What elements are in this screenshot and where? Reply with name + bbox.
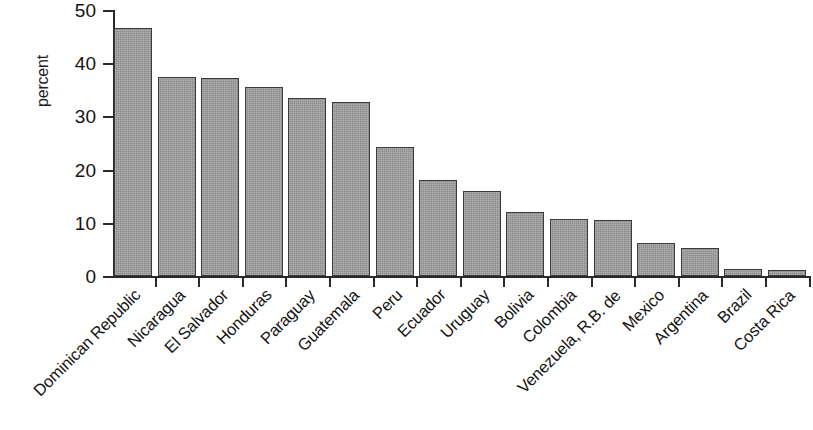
bar [201,78,239,276]
x-axis-tick [591,278,593,287]
x-axis-tick [809,278,811,287]
y-axis-tick-label: 30 [22,107,96,126]
y-axis-tick [103,10,113,12]
bar [376,147,414,276]
y-axis-tick [103,223,113,225]
x-axis-tick [285,278,287,287]
y-axis-tick-label: 50 [22,1,96,20]
bar [594,220,632,276]
bar [332,102,370,276]
bar [114,28,152,276]
y-axis-tick-label: 20 [22,161,96,180]
y-axis-tick [103,116,113,118]
x-axis-tick [460,278,462,287]
x-axis-tick [503,278,505,287]
bar [245,87,283,276]
x-axis-tick [678,278,680,287]
x-axis-tick [634,278,636,287]
x-axis-tick [765,278,767,287]
bar [681,248,719,276]
x-axis-tick [373,278,375,287]
y-axis-tick [103,170,113,172]
x-axis-tick [329,278,331,287]
bar [506,212,544,276]
bars-layer [113,8,811,276]
plot-area [113,8,811,278]
bar [724,269,762,276]
y-axis-tick-label: 10 [22,214,96,233]
x-axis-tick [721,278,723,287]
bar-chart: percent 50403020100 Dominican RepublicNi… [0,0,813,430]
x-axis-label: Dominican Republic [30,286,144,400]
bar [463,191,501,276]
bar [419,180,457,276]
x-axis-tick [416,278,418,287]
bar [637,243,675,276]
bar [158,77,196,277]
x-axis-tick [155,278,157,287]
bar [288,98,326,276]
bar [768,270,806,276]
x-axis-tick [198,278,200,287]
bar [550,219,588,276]
x-axis-tick [547,278,549,287]
x-axis-tick [242,278,244,287]
y-axis-tick [103,63,113,65]
y-axis-tick-label: 40 [22,54,96,73]
y-axis-tick [103,276,113,278]
x-axis-label: Peru [369,286,406,323]
x-axis-label: Brazil [713,286,754,327]
y-axis-tick-label: 0 [22,267,96,286]
